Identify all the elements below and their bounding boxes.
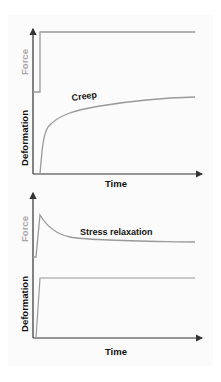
- viscoelasticity-diagram: Force Deformation Creep Time Force Defor…: [0, 0, 221, 382]
- stress-relaxation-chart: Force Deformation Stress relaxation Time: [19, 193, 202, 357]
- force-curve: [33, 32, 195, 92]
- force-axis-label: Force: [19, 49, 30, 75]
- stress-relaxation-label: Stress relaxation: [80, 227, 153, 237]
- time-axis-label: Time: [105, 346, 127, 357]
- deformation-axis-label: Deformation: [19, 110, 30, 166]
- time-axis-label: Time: [105, 178, 127, 189]
- creep-chart: Force Deformation Creep Time: [19, 29, 202, 189]
- creep-label: Creep: [71, 89, 98, 103]
- deformation-curve: [40, 97, 195, 174]
- force-axis-label: Force: [19, 216, 30, 242]
- deformation-axis-label: Deformation: [19, 276, 30, 332]
- deformation-curve: [36, 278, 195, 338]
